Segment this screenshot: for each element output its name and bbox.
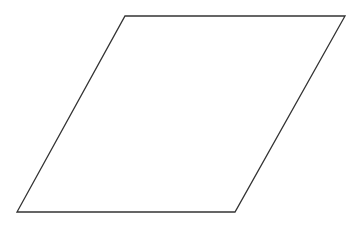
parallelogram xyxy=(17,16,345,212)
diagram-canvas xyxy=(0,0,362,231)
